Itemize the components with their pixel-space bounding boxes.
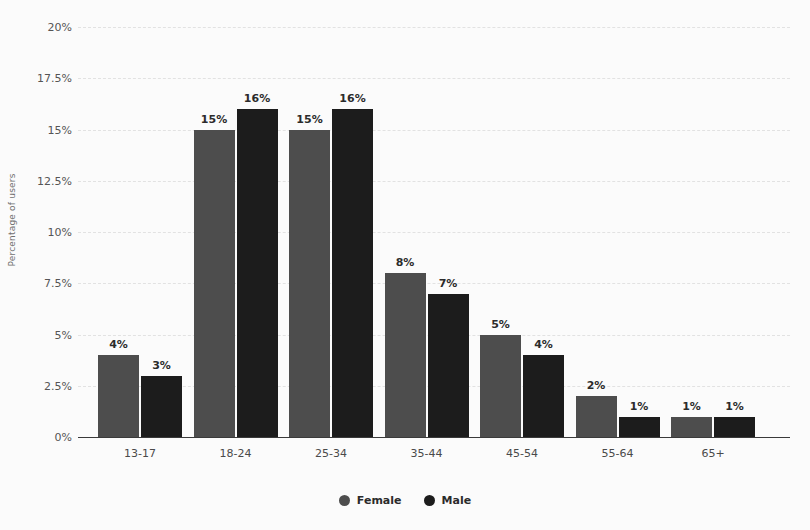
bar-male-18-24[interactable] <box>237 109 278 437</box>
y-axis-tick-label: 10% <box>2 226 72 239</box>
bar-female-13-17[interactable] <box>98 355 139 437</box>
bar-female-45-54[interactable] <box>480 335 521 438</box>
x-axis-tick-label-55-64: 55-64 <box>568 447 668 460</box>
x-axis-tick-labels: 13-1718-2425-3435-4445-5455-6465+ <box>78 447 790 471</box>
bar-female-65+[interactable] <box>671 417 712 438</box>
legend-item-female[interactable]: Female <box>339 494 402 507</box>
bar-value-label: 1% <box>619 400 660 413</box>
y-axis-tick-label: 7.5% <box>2 277 72 290</box>
bar-male-35-44[interactable] <box>428 294 469 438</box>
x-axis-tick-label-13-17: 13-17 <box>90 447 190 460</box>
bar-value-label: 8% <box>385 256 426 269</box>
y-axis-tick-label: 2.5% <box>2 379 72 392</box>
bar-value-label: 7% <box>428 277 469 290</box>
bar-female-18-24[interactable] <box>194 130 235 438</box>
y-axis-tick-label: 17.5% <box>2 72 72 85</box>
bar-male-45-54[interactable] <box>523 355 564 437</box>
legend-item-male[interactable]: Male <box>424 494 472 507</box>
bar-value-label: 3% <box>141 359 182 372</box>
bar-value-label: 1% <box>714 400 755 413</box>
y-axis-tick-label: 0% <box>2 431 72 444</box>
circle-marker <box>424 495 435 506</box>
y-axis-tick-label: 20% <box>2 21 72 34</box>
y-axis-tick-labels: 20%17.5%15%12.5%10%7.5%5%2.5%0% <box>0 27 72 437</box>
bar-value-label: 16% <box>332 92 373 105</box>
bar-female-25-34[interactable] <box>289 130 330 438</box>
bar-value-label: 1% <box>671 400 712 413</box>
x-axis-tick-label-35-44: 35-44 <box>377 447 477 460</box>
x-axis-tick-label-18-24: 18-24 <box>186 447 286 460</box>
y-axis-tick-label: 12.5% <box>2 174 72 187</box>
bar-value-label: 4% <box>523 338 564 351</box>
bar-value-label: 15% <box>289 113 330 126</box>
x-axis-tick-label-25-34: 25-34 <box>281 447 381 460</box>
bar-value-label: 2% <box>576 379 617 392</box>
bar-value-label: 16% <box>237 92 278 105</box>
y-axis-tick-label: 5% <box>2 328 72 341</box>
bar-value-label: 4% <box>98 338 139 351</box>
bar-female-55-64[interactable] <box>576 396 617 437</box>
legend-label: Male <box>442 494 472 507</box>
bar-male-55-64[interactable] <box>619 417 660 438</box>
bar-value-label: 5% <box>480 318 521 331</box>
circle-marker <box>339 495 350 506</box>
bar-chart: Percentage of users 20%17.5%15%12.5%10%7… <box>0 0 810 530</box>
bar-female-35-44[interactable] <box>385 273 426 437</box>
bar-male-65+[interactable] <box>714 417 755 438</box>
x-axis-tick-label-65+: 65+ <box>663 447 763 460</box>
x-axis-tick-label-45-54: 45-54 <box>472 447 572 460</box>
bars-group: 4%15%15%8%5%2%1%3%16%16%7%4%1%1% <box>78 27 790 437</box>
y-axis-tick-label: 15% <box>2 123 72 136</box>
bar-male-25-34[interactable] <box>332 109 373 437</box>
bar-male-13-17[interactable] <box>141 376 182 438</box>
legend-label: Female <box>357 494 402 507</box>
chart-legend: FemaleMale <box>0 494 810 507</box>
bar-value-label: 15% <box>194 113 235 126</box>
x-axis-line <box>78 437 790 438</box>
